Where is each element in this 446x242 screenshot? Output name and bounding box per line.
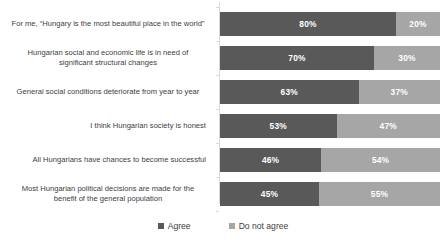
category-label: Hungarian social and economic life is in…	[0, 48, 213, 68]
bar-segment-agree: 70%	[220, 46, 374, 70]
bar-row: I think Hungarian society is honest53%47…	[0, 109, 446, 143]
legend-item-agree[interactable]: Agree	[158, 221, 191, 231]
bar-row: Hungarian social and economic life is in…	[0, 41, 446, 75]
bar-row: All Hungarians have chances to become su…	[0, 143, 446, 177]
legend-label-do-not-agree: Do not agree	[239, 221, 289, 231]
stacked-bar-chart: For me, “Hungary is the most beautiful p…	[0, 0, 446, 242]
bar-segment-agree: 46%	[220, 148, 321, 172]
legend-label-agree: Agree	[168, 221, 191, 231]
stacked-bar: 63%37%	[220, 80, 440, 104]
bar-segment-agree: 80%	[220, 12, 396, 36]
category-axis-tick	[216, 143, 219, 144]
stacked-bar: 46%54%	[220, 148, 440, 172]
stacked-bar: 80%20%	[220, 12, 440, 36]
bar-segment-do-not-agree: 54%	[321, 148, 440, 172]
bar-segment-do-not-agree: 37%	[359, 80, 440, 104]
bar-segment-do-not-agree: 20%	[396, 12, 440, 36]
bar-segment-agree: 45%	[220, 182, 319, 206]
category-label: For me, “Hungary is the most beautiful p…	[0, 19, 213, 29]
stacked-bar: 70%30%	[220, 46, 440, 70]
legend-swatch-agree-icon	[158, 223, 164, 229]
bar-row: General social conditions deteriorate fr…	[0, 75, 446, 109]
legend-item-do-not-agree[interactable]: Do not agree	[229, 221, 289, 231]
category-axis-tick	[216, 75, 219, 76]
category-label: General social conditions deteriorate fr…	[0, 87, 213, 97]
plot-area: For me, “Hungary is the most beautiful p…	[0, 0, 446, 208]
category-axis-tick	[216, 41, 219, 42]
stacked-bar: 45%55%	[220, 182, 440, 206]
category-label: Most Hungarian political decisions are m…	[0, 184, 213, 204]
category-label: I think Hungarian society is honest	[0, 121, 213, 131]
bar-segment-do-not-agree: 30%	[374, 46, 440, 70]
stacked-bar: 53%47%	[220, 114, 440, 138]
bar-row: For me, “Hungary is the most beautiful p…	[0, 7, 446, 41]
category-axis-tick	[216, 211, 219, 212]
category-axis-tick	[216, 109, 219, 110]
bar-segment-agree: 53%	[220, 114, 337, 138]
bar-segment-agree: 63%	[220, 80, 359, 104]
legend-swatch-do-not-agree-icon	[229, 223, 235, 229]
category-axis-tick	[216, 177, 219, 178]
category-axis-tick	[216, 7, 219, 8]
category-label: All Hungarians have chances to become su…	[0, 155, 213, 165]
bar-row: Most Hungarian political decisions are m…	[0, 177, 446, 211]
chart-legend: Agree Do not agree	[0, 216, 446, 236]
bar-segment-do-not-agree: 55%	[319, 182, 440, 206]
bar-segment-do-not-agree: 47%	[337, 114, 440, 138]
